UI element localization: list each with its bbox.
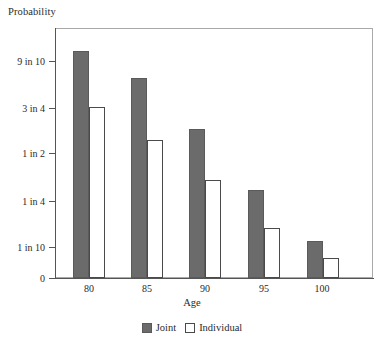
y-tick-label: 0: [40, 273, 45, 284]
y-tick-mark: [49, 61, 55, 62]
y-axis-title: Probability: [8, 6, 56, 17]
x-axis-title: Age: [0, 297, 384, 308]
y-tick-label: 3 in 4: [22, 103, 45, 114]
bar-joint-85: [131, 78, 147, 278]
bar-individual-90: [205, 180, 221, 278]
x-tick-label: 85: [142, 283, 152, 294]
y-tick-mark: [49, 201, 55, 202]
x-tick-label: 90: [200, 283, 210, 294]
bar-joint-90: [189, 129, 205, 278]
bar-individual-85: [147, 140, 163, 278]
y-tick-mark: [49, 153, 55, 154]
x-tick-label: 80: [84, 283, 94, 294]
y-tick-mark: [49, 278, 55, 279]
bar-joint-100: [307, 241, 323, 278]
y-tick-label: 9 in 10: [17, 56, 45, 67]
probability-by-age-chart: Probability 9 in 103 in 41 in 21 in 41 i…: [0, 0, 384, 348]
y-tick-label: 1 in 2: [22, 148, 45, 159]
legend-label: Individual: [199, 322, 242, 333]
legend-swatch-individual-icon: [185, 323, 195, 333]
x-axis-line: [55, 278, 374, 279]
bar-joint-95: [248, 190, 264, 278]
bar-joint-80: [73, 51, 89, 278]
legend-label: Joint: [156, 322, 176, 333]
chart-legend: JointIndividual: [0, 322, 384, 333]
bar-individual-95: [264, 228, 280, 278]
x-tick-label: 100: [315, 283, 330, 294]
legend-swatch-joint-icon: [142, 323, 152, 333]
y-tick-label: 1 in 10: [17, 242, 45, 253]
x-tick-label: 95: [259, 283, 269, 294]
y-axis-line: [55, 28, 56, 279]
y-tick-label: 1 in 4: [22, 196, 45, 207]
legend-entry-individual: Individual: [185, 322, 242, 333]
bar-individual-80: [89, 107, 105, 278]
y-tick-mark: [49, 247, 55, 248]
bar-individual-100: [323, 258, 339, 278]
legend-entry-joint: Joint: [142, 322, 176, 333]
y-tick-mark: [49, 108, 55, 109]
